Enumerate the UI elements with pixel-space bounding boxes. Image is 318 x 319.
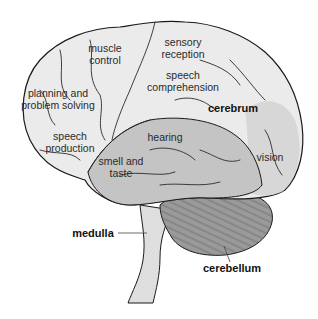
label-speech-comprehension: speech comprehension [147,69,219,93]
label-vision: vision [257,151,284,163]
label-planning-problem-solving: planning and problem solving [21,87,95,111]
label-speech-production: speech production [45,130,94,154]
brain-diagram: muscle control sensory reception plannin… [0,0,318,319]
label-cerebrum: cerebrum [208,102,258,114]
label-smell-taste: smell and taste [99,155,144,179]
label-muscle-control: muscle control [88,42,121,66]
label-cerebellum: cerebellum [203,262,261,274]
label-sensory-reception: sensory reception [161,36,204,60]
label-hearing: hearing [147,131,182,143]
label-medulla: medulla [72,227,114,239]
